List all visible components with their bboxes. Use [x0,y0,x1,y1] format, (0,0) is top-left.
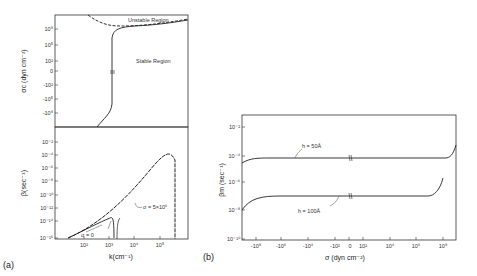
b-ytick: 10⁻⁸ [229,207,240,213]
a-top-ytick: 10⁵ [45,42,53,48]
b-x-ticks [256,237,443,240]
h-50-label: h = 50Å [302,143,321,149]
b-ytick: 10⁻⁴ [229,153,241,159]
b-xtick: -10² [330,243,340,249]
a-bot-ylabel: β(sec⁻¹) [20,170,28,196]
a-bot-ytick: 10⁻⁴ [42,152,54,158]
sigma-0-label: σ = 0 [81,232,94,238]
panel-b-label: (b) [203,252,214,262]
b-xtick: 10⁴ [386,243,395,249]
a-top-ytick: 0 [50,68,53,74]
panel-b: 10⁻² 10⁻⁴ 10⁻⁶ 10⁻⁸ 10⁻¹⁰ βm (sec⁻¹) -10… [203,115,456,262]
a-bot-ytick: 10⁻² [42,139,53,145]
sigma-5e6-label: σ = 5×10⁶ [143,204,167,210]
b-xtick: -10⁶ [276,243,286,249]
h-100-label: h = 100Å [298,208,321,214]
a-bot-ytick: 10⁻¹⁰ [40,192,54,198]
a-bot-y-ticks [55,142,58,238]
a-bot-ytick: 10⁻¹² [40,205,53,211]
panel-b-frame [242,115,456,240]
a-bot-ytick: 10⁻¹⁴ [40,218,54,224]
panel-a-bottom-frame [55,127,188,239]
b-y-ticks [242,127,245,239]
b-ytick: 10⁻² [229,124,240,130]
a-top-ytick: -10⁸ [43,110,53,116]
panel-a-label: (a) [3,260,14,270]
b-ylabel: βm (sec⁻¹) [218,163,226,197]
a-bot-ytick: 10⁻⁶ [42,165,53,171]
b-xtick: -10⁸ [251,243,261,249]
b-xtick: -10⁴ [303,243,314,249]
a-top-ylabel: σc (dyn cm⁻²) [20,49,28,92]
a-xtick: 10² [80,242,88,248]
a-top-y-ticks [55,29,58,113]
axis-break-marks [349,155,352,199]
a-top-ytick: -10⁵ [43,96,53,102]
unstable-region-label: Unstable Region [128,17,169,23]
b-ytick: 10⁻¹⁰ [227,236,241,242]
panel-a-top-frame [55,15,188,127]
curve-h-100 [242,178,443,210]
a-xtick: 10³ [105,242,113,248]
b-xtick: 0 [348,243,351,249]
stability-curve-solid [97,20,188,127]
a-top-ytick: -10² [43,82,53,88]
a-xtick: 10⁴ [130,242,139,248]
a-bot-ytick: 10⁻¹⁶ [40,235,53,241]
b-xtick: 10² [359,243,367,249]
a-top-ytick: 10² [45,58,53,64]
b-xlabel: σ (dyn cm⁻²) [325,254,365,262]
curve-sigma-5e6 [68,154,175,239]
b-ytick: 10⁻⁶ [229,179,240,185]
curve-h-50 [242,145,456,163]
a-top-ytick: 10⁸ [45,26,53,32]
a-x-ticks [84,236,160,239]
b-xtick: 10⁶ [412,243,420,249]
a-xlabel: k(cm⁻¹) [109,253,133,261]
figure: 10⁸ 10⁵ 10² 0 -10² -10⁵ -10⁸ σc (dyn cm⁻… [0,0,477,276]
a-bot-ytick: 10⁻⁸ [42,178,53,184]
stable-region-label: Stable Region [136,58,171,64]
panel-a: 10⁸ 10⁵ 10² 0 -10² -10⁵ -10⁸ σc (dyn cm⁻… [3,15,188,270]
a-xtick: 10⁵ [156,242,164,248]
b-xtick: 10⁸ [439,243,447,249]
